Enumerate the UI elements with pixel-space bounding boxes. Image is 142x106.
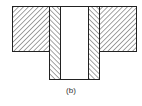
right-flange-section [100,7,137,52]
left-sleeve-wall [50,7,61,80]
left-flange-section [13,7,50,52]
right-sleeve-wall [89,7,100,80]
figure-caption: (b) [0,86,142,95]
